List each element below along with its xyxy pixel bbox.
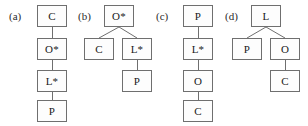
panel-label-a: (a) [9,11,21,22]
panel-label-d: (d) [225,11,238,22]
node-a4: P [37,100,67,122]
node-a3: L* [37,70,67,92]
node-a1: C [37,5,67,27]
node-c3: O [183,70,213,92]
edge-b1-b3 [119,27,137,38]
node-b2: C [84,38,114,60]
edge-d1-d3 [266,27,285,38]
node-b1: O* [104,5,134,27]
panel-label-b: (b) [78,11,91,22]
node-c2: L* [183,38,213,60]
node-d2: P [232,38,262,60]
edge-b1-b2 [99,27,119,38]
node-b4: P [122,70,152,92]
panel-label-c: (c) [156,11,168,22]
node-b3: L* [122,38,152,60]
edge-d1-d2 [247,27,266,38]
node-d3: O [270,38,300,60]
node-d4: C [270,70,300,92]
node-a2: O* [37,38,67,60]
node-c1: P [183,5,213,27]
node-d1: L [251,5,281,27]
figure-canvas: (a) C O* L* P (b) O* C L* P (c) P L* O C… [0,0,308,126]
node-c4: C [183,100,213,122]
